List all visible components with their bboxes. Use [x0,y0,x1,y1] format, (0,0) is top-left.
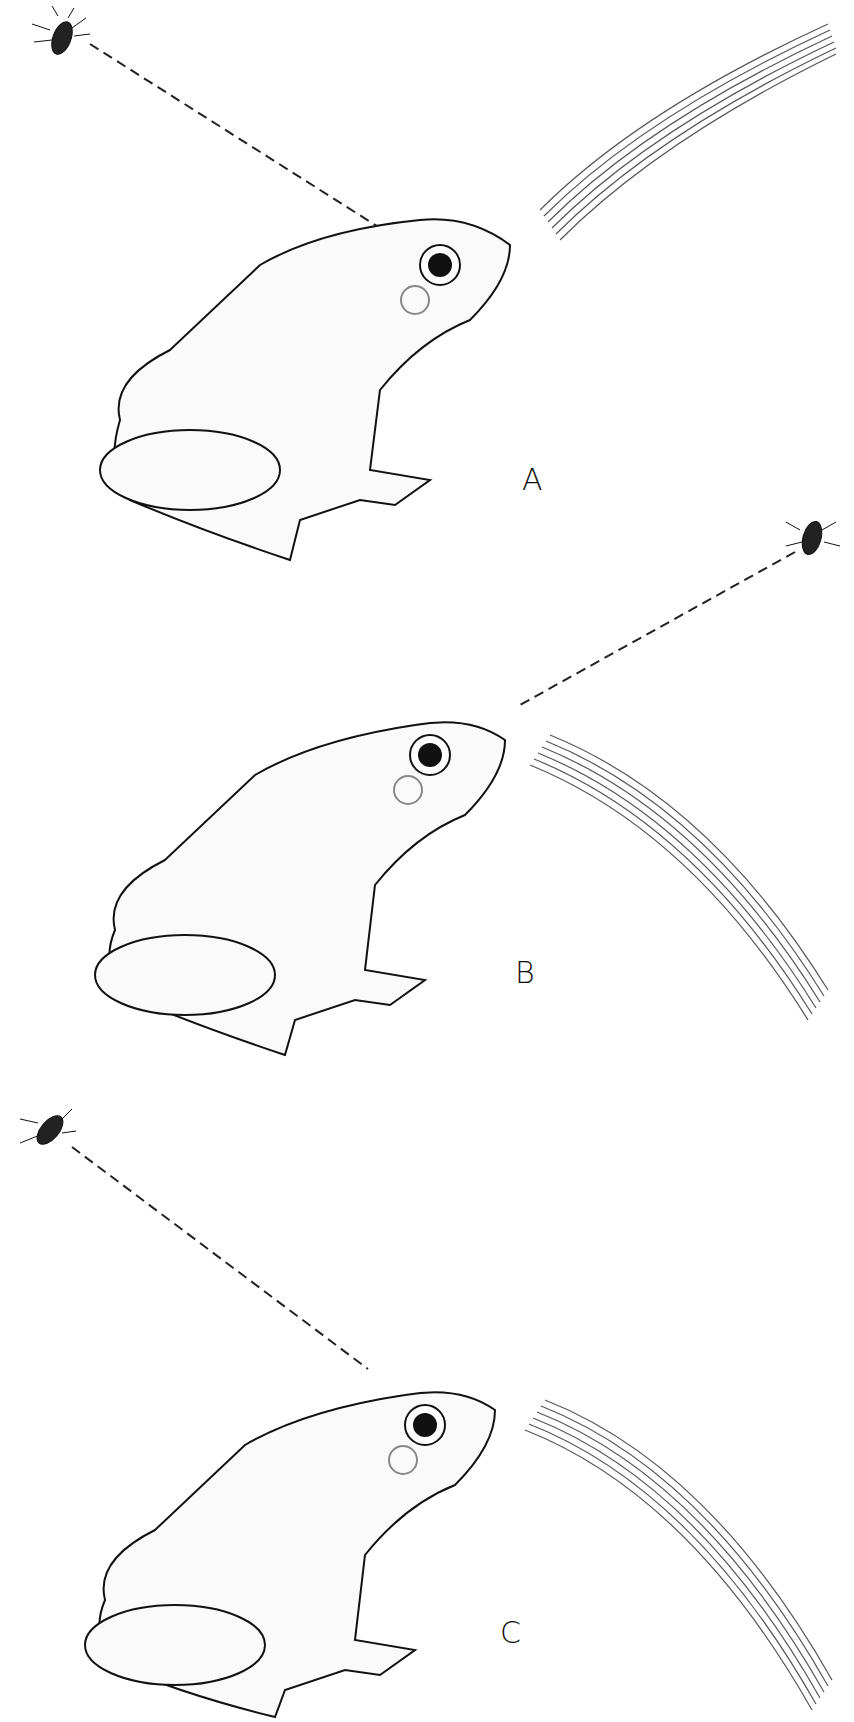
panel-b: B [0,500,854,1060]
panel-label: B [515,955,535,990]
sight-line [72,1147,368,1369]
stripe-pattern [525,1400,832,1710]
panel-label: A [522,462,543,497]
fly-icon [20,1109,76,1149]
stripe-pattern [540,24,836,240]
fly-icon [786,519,840,557]
panel-c: C [0,1085,854,1722]
panel-a: A [0,0,854,570]
frog [85,1392,495,1717]
sight-line [90,44,380,228]
panel-a-drawing [0,0,854,570]
sight-line [520,552,795,705]
stripe-pattern [530,735,828,1020]
frog [95,722,505,1055]
panel-label: C [500,1615,521,1650]
panel-b-drawing [0,500,854,1060]
fly-icon [32,6,90,57]
panel-c-drawing [0,1085,854,1722]
